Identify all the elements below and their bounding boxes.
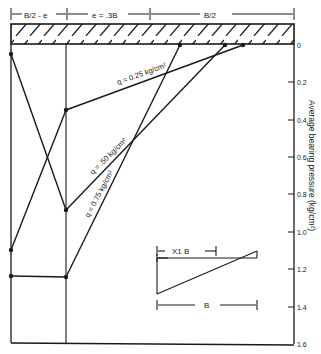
svg-text:0.2: 0.2: [297, 79, 307, 86]
label-q025: q = 0.25 kg/cm²: [116, 60, 168, 86]
svg-text:1.0: 1.0: [297, 229, 307, 236]
dim-label-right: B/2: [204, 11, 217, 20]
axis-title: Average bearing pressure (kg/cm²): [307, 100, 317, 231]
svg-text:0: 0: [297, 42, 301, 49]
dim-label-middle: e = .3B: [92, 11, 118, 20]
svg-text:0.8: 0.8: [297, 191, 307, 198]
svg-text:1.4: 1.4: [297, 304, 307, 311]
bearing-pressure-diagram: B/2 - e e = .3B B/2 0 0.2 0.4 0.6 0.8 1.…: [0, 0, 321, 354]
inset-b-label: B: [204, 301, 209, 310]
inset-x1b-label: X1 B: [172, 247, 189, 256]
svg-text:0.6: 0.6: [297, 154, 307, 161]
axis-tick-labels: 0 0.2 0.4 0.6 0.8 1.0 1.2 1.4 1.6: [297, 42, 307, 348]
svg-text:0.4: 0.4: [297, 117, 307, 124]
svg-text:1.6: 1.6: [297, 341, 307, 348]
svg-text:1.2: 1.2: [297, 266, 307, 273]
axis-ticks: [288, 82, 294, 307]
curve-q075-left: [11, 276, 66, 277]
dimension-lines: [11, 8, 294, 20]
bottom-line: [11, 343, 294, 345]
footing: [11, 24, 294, 44]
dim-label-left: B/2 - e: [24, 11, 48, 20]
